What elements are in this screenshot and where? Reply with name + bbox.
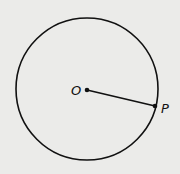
center-point-o	[85, 88, 90, 93]
point-p	[153, 104, 158, 109]
label-p: P	[161, 101, 169, 116]
label-o: O	[71, 83, 81, 98]
circle-diagram: O P	[0, 0, 180, 174]
radius-segment-op	[87, 90, 155, 106]
